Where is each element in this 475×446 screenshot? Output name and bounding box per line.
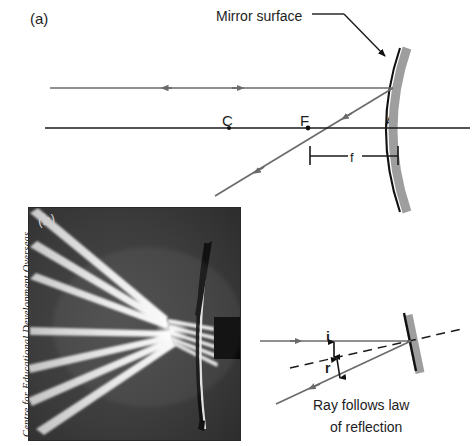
mirror-label-leader-arrow <box>344 14 385 56</box>
mirror-backing-band <box>393 48 407 212</box>
point-marker-f <box>306 126 311 131</box>
photo-contents <box>28 207 241 441</box>
reflection-caption-line-2: of reflection <box>330 417 402 437</box>
reflected-ray-arrow-upper <box>344 113 352 118</box>
point-marker-c <box>227 126 231 130</box>
photo-glow <box>53 247 241 407</box>
panel-c-canvas <box>248 280 475 420</box>
panel-b-photograph <box>28 207 241 441</box>
reflected-ray <box>215 88 393 196</box>
panel-b-tag: (b) <box>38 212 55 228</box>
inset-reflected-ray <box>276 341 411 404</box>
normal-dashed-line <box>290 329 462 368</box>
figure-root: (a) Mirror surface C F A f <box>0 0 475 446</box>
panel-a-canvas <box>0 0 475 230</box>
inset-reflected-ray-arrow <box>311 384 320 388</box>
